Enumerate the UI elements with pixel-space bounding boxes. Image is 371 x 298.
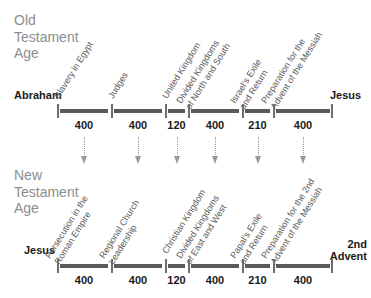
old-testament-age-title: Old Testament Age <box>14 12 79 62</box>
arrow-head <box>174 156 180 164</box>
bible-timeline-diagram: Old Testament Age Abraham Jesus Slavery … <box>0 0 371 298</box>
era-duration: 400 <box>294 119 312 131</box>
axis-tick <box>331 259 333 273</box>
arrow-head <box>300 156 306 164</box>
axis-segment <box>60 264 108 268</box>
axis-segment <box>245 264 270 268</box>
era-duration: 400 <box>75 119 93 131</box>
era-duration: 400 <box>206 274 224 286</box>
era-duration: 400 <box>294 274 312 286</box>
axis-tick <box>57 104 59 118</box>
old-testament-end-label: Jesus <box>330 89 361 101</box>
connector-arrow-icon <box>134 137 143 165</box>
axis-segment <box>114 264 162 268</box>
axis-segment <box>168 109 185 113</box>
axis-tick <box>111 259 113 273</box>
arrow-shaft <box>177 137 178 157</box>
axis-tick <box>57 259 59 273</box>
arrow-shaft <box>303 137 304 157</box>
connector-arrow-icon <box>80 137 89 165</box>
arrow-shaft <box>138 137 139 157</box>
connector-arrow-icon <box>254 137 263 165</box>
axis-tick <box>188 104 190 118</box>
axis-tick <box>242 104 244 118</box>
connector-arrow-icon <box>211 137 220 165</box>
new-testament-end-label: 2nd Advent <box>330 238 367 262</box>
era-duration: 210 <box>248 119 266 131</box>
connector-arrow-icon <box>299 137 308 165</box>
axis-tick <box>165 259 167 273</box>
axis-tick <box>165 104 167 118</box>
axis-tick <box>273 259 275 273</box>
era-label: Regional Church Leadership <box>97 198 150 266</box>
arrow-head <box>81 156 87 164</box>
axis-tick <box>242 259 244 273</box>
era-duration: 210 <box>248 274 266 286</box>
axis-segment <box>191 109 239 113</box>
old-testament-axis <box>57 104 333 118</box>
axis-segment <box>191 264 239 268</box>
arrow-shaft <box>215 137 216 157</box>
arrow-head <box>255 156 261 164</box>
arrow-shaft <box>84 137 85 157</box>
axis-tick <box>273 104 275 118</box>
new-testament-age-title: New Testament Age <box>14 167 79 217</box>
axis-tick <box>111 104 113 118</box>
era-duration: 120 <box>167 274 185 286</box>
axis-segment <box>276 264 330 268</box>
arrow-shaft <box>258 137 259 157</box>
connector-arrow-icon <box>173 137 182 165</box>
arrow-head <box>135 156 141 164</box>
era-label: Judges <box>106 70 130 100</box>
axis-segment <box>114 109 162 113</box>
axis-segment <box>245 109 270 113</box>
axis-tick <box>331 104 333 118</box>
axis-segment <box>276 109 330 113</box>
era-duration: 400 <box>75 274 93 286</box>
era-duration: 400 <box>129 119 147 131</box>
new-testament-axis <box>57 259 333 273</box>
axis-tick <box>188 259 190 273</box>
era-duration: 400 <box>206 119 224 131</box>
era-duration: 120 <box>167 119 185 131</box>
axis-segment <box>168 264 185 268</box>
arrow-head <box>212 156 218 164</box>
axis-segment <box>60 109 108 113</box>
era-duration: 400 <box>129 274 147 286</box>
